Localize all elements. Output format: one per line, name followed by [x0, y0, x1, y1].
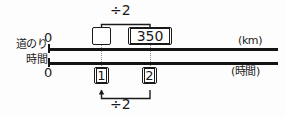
- row-label-distance: 道のり: [2, 39, 47, 51]
- operation-label-top: ÷2: [110, 3, 131, 17]
- time-value-two-text: 2: [144, 68, 155, 83]
- distance-answer-box[interactable]: [92, 27, 111, 45]
- operation-label-bottom: ÷2: [110, 97, 131, 111]
- origin-label-distance: 0: [44, 31, 52, 44]
- distance-value-text: 350: [130, 28, 170, 44]
- unit-label-distance: (km): [238, 35, 262, 47]
- row-label-time: 時間: [2, 54, 47, 66]
- number-line-distance: [48, 48, 278, 51]
- number-line-diagram: ÷2 道のり 0 (km) 350 時間 0 (時間) 1 2 ÷2: [0, 0, 286, 117]
- unit-label-time: (時間): [231, 66, 260, 78]
- time-value-box-two: 2: [142, 67, 157, 84]
- time-value-box-one: 1: [94, 67, 109, 84]
- time-value-one-text: 1: [96, 68, 107, 83]
- distance-value-box: 350: [128, 27, 172, 45]
- origin-label-time: 0: [44, 66, 52, 79]
